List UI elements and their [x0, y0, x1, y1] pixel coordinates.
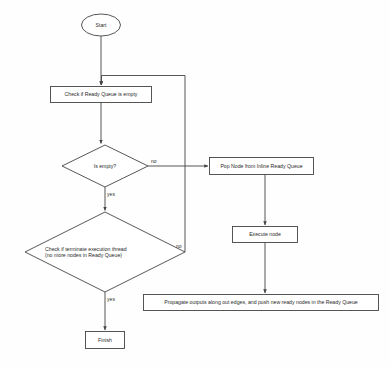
- flowchart-diagram-svg: [0, 0, 390, 367]
- connector-lines-group: [101, 36, 265, 330]
- flowchart-canvas: Start Check if Ready Queue is empty Is e…: [0, 0, 390, 367]
- propagate-outputs-node-shape: [144, 295, 379, 311]
- edge-label-terminate-yes: yes: [107, 296, 115, 302]
- pop-node-node-shape: [210, 158, 314, 175]
- check-ready-queue-node-shape: [51, 87, 152, 103]
- start-node-shape: [82, 14, 121, 36]
- edge-label-is-empty-no: no: [151, 158, 157, 164]
- check-terminate-node-shape: [25, 212, 185, 292]
- execute-node-node-shape: [233, 227, 298, 243]
- edge-label-is-empty-yes: yes: [107, 191, 115, 197]
- node-shapes-group: [25, 14, 379, 349]
- edge-label-terminate-no: no: [176, 243, 182, 249]
- is-empty-node-shape: [62, 145, 148, 187]
- finish-node-shape: [86, 332, 125, 349]
